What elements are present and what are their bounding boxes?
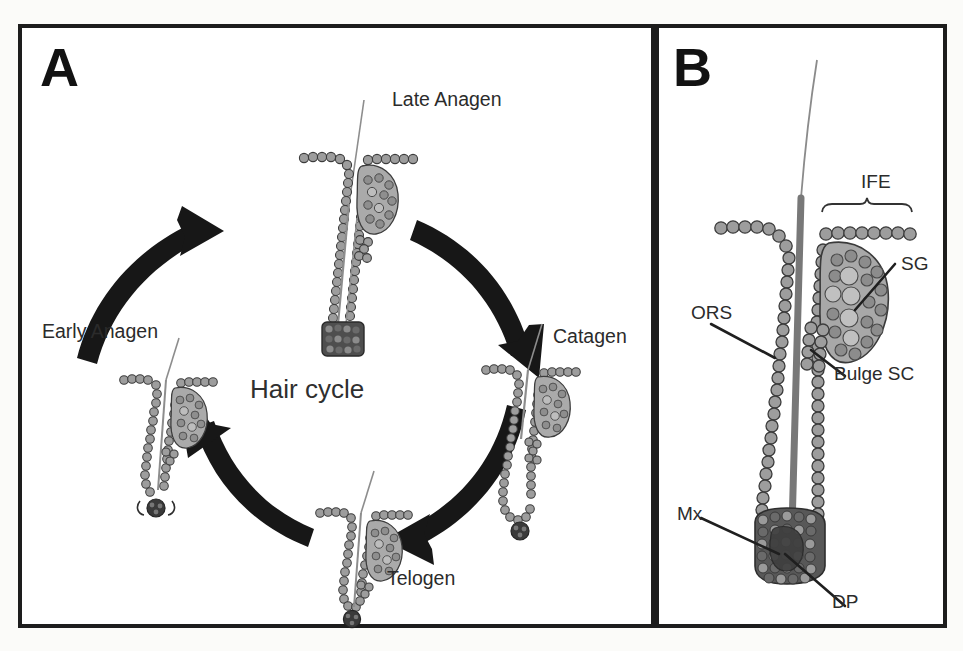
panel-a: A xyxy=(18,24,655,628)
follicle-late-anagen xyxy=(299,100,417,356)
hair-shaft-internal xyxy=(792,198,801,528)
stage-label-telogen: Telogen xyxy=(387,569,455,589)
dermal-papilla xyxy=(511,522,529,540)
hair-follicle-cycle-figure: A xyxy=(0,0,963,651)
epidermis-left xyxy=(715,221,792,252)
label-ife: IFE xyxy=(861,172,891,191)
stage-label-late-anagen: Late Anagen xyxy=(392,90,502,110)
label-mx: Mx xyxy=(677,504,702,523)
follicle-early-anagen xyxy=(120,338,218,517)
dermal-papilla xyxy=(343,610,360,627)
label-ors: ORS xyxy=(691,303,732,322)
hair-cycle-center-label: Hair cycle xyxy=(250,374,364,405)
stage-label-early-anagen: Early Anagen xyxy=(42,322,158,342)
dermal-papilla xyxy=(147,499,165,517)
arrow-late-to-catagen xyxy=(410,220,544,378)
sebaceous-gland xyxy=(820,242,888,362)
label-bulge-sc: Bulge SC xyxy=(834,364,914,383)
follicle-telogen xyxy=(316,471,413,628)
epidermis-right-ife xyxy=(820,227,916,240)
hair-bulb xyxy=(755,508,825,584)
ife-bracket xyxy=(822,198,912,212)
bulge xyxy=(525,438,541,464)
hair-shaft-external xyxy=(801,60,817,198)
panel-b: B xyxy=(655,24,947,628)
sebaceous-gland xyxy=(534,376,570,437)
label-sg: SG xyxy=(901,254,928,273)
ors-left-chain xyxy=(756,252,795,516)
stage-label-catagen: Catagen xyxy=(553,327,627,347)
hair-bulb xyxy=(322,322,364,356)
leader-ors xyxy=(711,324,775,358)
label-dp: DP xyxy=(832,592,858,611)
panel-b-canvas xyxy=(659,28,943,624)
sebaceous-gland xyxy=(357,165,398,234)
